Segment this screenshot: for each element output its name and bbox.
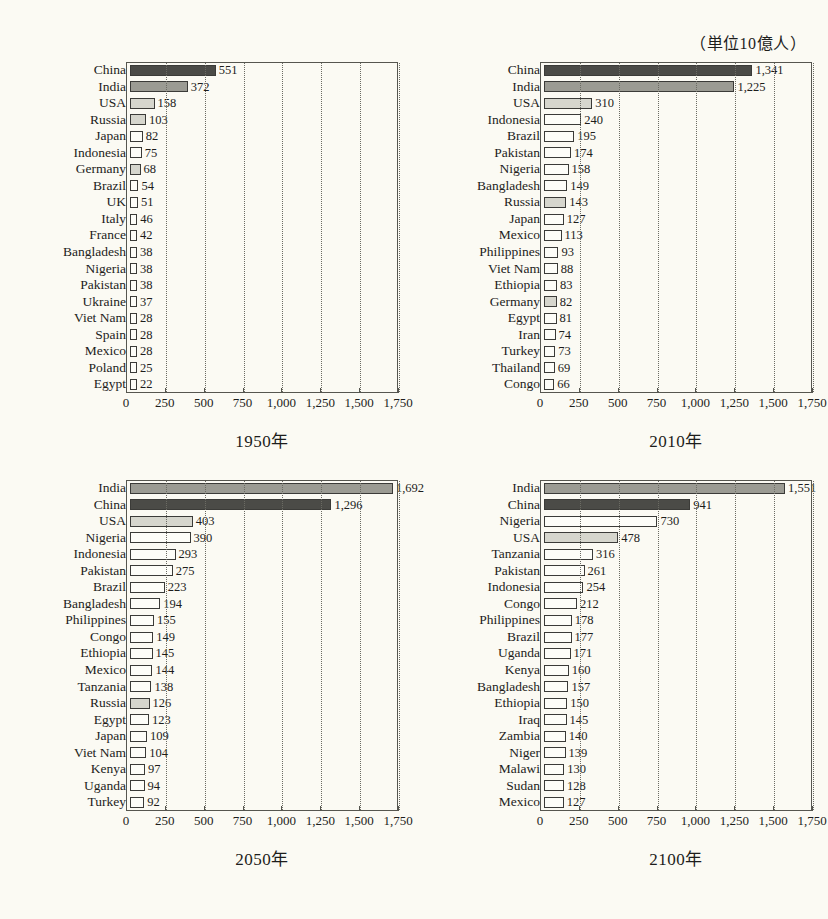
bar-value-label: 22 bbox=[137, 376, 153, 393]
bar-track: 140 bbox=[544, 728, 816, 745]
bar bbox=[130, 114, 146, 125]
bar-value-label: 130 bbox=[564, 761, 586, 778]
category-label: Zambia bbox=[414, 728, 544, 745]
bar bbox=[544, 197, 566, 208]
bar-value-label: 194 bbox=[160, 596, 182, 613]
bar-row: Germany68 bbox=[0, 161, 414, 178]
category-label: India bbox=[0, 79, 130, 96]
bar-track: 42 bbox=[130, 227, 402, 244]
bar-value-label: 123 bbox=[149, 712, 171, 729]
axis-tick-label: 1,250 bbox=[720, 395, 749, 411]
category-label: India bbox=[414, 480, 544, 497]
bar bbox=[544, 379, 554, 390]
bar-row: Nigeria158 bbox=[414, 161, 828, 178]
bar-row: Indonesia75 bbox=[0, 145, 414, 162]
bar bbox=[544, 329, 556, 340]
category-label: Egypt bbox=[0, 712, 130, 729]
bar-value-label: 138 bbox=[151, 679, 173, 696]
bar bbox=[130, 731, 147, 742]
bar-value-label: 223 bbox=[165, 579, 187, 596]
bar bbox=[130, 615, 154, 626]
bar-track: 81 bbox=[544, 310, 816, 327]
bar-track: 372 bbox=[130, 79, 402, 96]
axis-tick-mark bbox=[398, 388, 399, 393]
bar bbox=[130, 65, 216, 76]
chart-panel-2010: China1,341India1,225USA310Indonesia240Br… bbox=[414, 62, 828, 480]
bar-value-label: 66 bbox=[554, 376, 570, 393]
axis-tick-mark bbox=[126, 806, 127, 811]
bar-row: China551 bbox=[0, 62, 414, 79]
bar-track: 310 bbox=[544, 95, 816, 112]
axis-tick-mark bbox=[243, 806, 244, 811]
bar-row: Turkey73 bbox=[414, 343, 828, 360]
bar-row: India372 bbox=[0, 79, 414, 96]
bar bbox=[130, 362, 137, 373]
bar-value-label: 390 bbox=[191, 530, 213, 547]
bar-track: 403 bbox=[130, 513, 402, 530]
axis-tick-label: 1,750 bbox=[797, 813, 826, 829]
category-label: Russia bbox=[0, 695, 130, 712]
bar-row: Nigeria730 bbox=[414, 513, 828, 530]
bar-row: Mexico28 bbox=[0, 343, 414, 360]
bar-track: 158 bbox=[544, 161, 816, 178]
bar-value-label: 104 bbox=[146, 745, 168, 762]
bar-row: UK51 bbox=[0, 194, 414, 211]
bar-value-label: 158 bbox=[155, 95, 177, 112]
category-label: Mexico bbox=[0, 662, 130, 679]
bar-row: Ethiopia150 bbox=[414, 695, 828, 712]
axis-tick-label: 1,250 bbox=[720, 813, 749, 829]
bar bbox=[544, 780, 564, 791]
bar bbox=[130, 665, 152, 676]
bar-track: 25 bbox=[130, 360, 402, 377]
bar-track: 75 bbox=[130, 145, 402, 162]
bar-track: 1,341 bbox=[544, 62, 816, 79]
bar-row: Kenya160 bbox=[414, 662, 828, 679]
category-label: USA bbox=[0, 95, 130, 112]
bar bbox=[544, 483, 785, 494]
bar-track: 157 bbox=[544, 679, 816, 696]
axis-tick-label: 0 bbox=[537, 395, 544, 411]
bar-track: 138 bbox=[130, 679, 402, 696]
bar-row: Iraq145 bbox=[414, 712, 828, 729]
bar-row: Egypt123 bbox=[0, 712, 414, 729]
axis-tick-mark bbox=[618, 388, 619, 393]
bar-row: Viet Nam88 bbox=[414, 261, 828, 278]
bar-value-label: 145 bbox=[567, 712, 589, 729]
bar-track: 177 bbox=[544, 629, 816, 646]
bar bbox=[130, 483, 393, 494]
bar-track: 97 bbox=[130, 761, 402, 778]
bar-row: Italy46 bbox=[0, 211, 414, 228]
bar-row: Brazil195 bbox=[414, 128, 828, 145]
bar-row: Japan109 bbox=[0, 728, 414, 745]
category-label: Indonesia bbox=[0, 145, 130, 162]
bar-row: Viet Nam104 bbox=[0, 745, 414, 762]
bar-track: 94 bbox=[130, 778, 402, 795]
bar-row: Ethiopia83 bbox=[414, 277, 828, 294]
bar-track: 109 bbox=[130, 728, 402, 745]
bar-track: 174 bbox=[544, 145, 816, 162]
chart-panel-2050: India1,692China1,296USA403Nigeria390Indo… bbox=[0, 480, 414, 898]
bar bbox=[130, 598, 160, 609]
bar-value-label: 127 bbox=[564, 794, 586, 811]
bar-value-label: 97 bbox=[145, 761, 161, 778]
figure-sheet: ・・・・・・・・・・・・・ （単位10億人） China551India372U… bbox=[0, 0, 828, 919]
bar-value-label: 37 bbox=[137, 294, 153, 311]
bar-track: 69 bbox=[544, 360, 816, 377]
bar-row: Viet Nam28 bbox=[0, 310, 414, 327]
category-label: USA bbox=[0, 513, 130, 530]
bar-value-label: 1,341 bbox=[752, 62, 783, 79]
category-label: Germany bbox=[0, 161, 130, 178]
category-label: Niger bbox=[414, 745, 544, 762]
category-label: Tanzania bbox=[414, 546, 544, 563]
axis-tick-label: 1,750 bbox=[383, 813, 412, 829]
axis-tick-mark bbox=[165, 806, 166, 811]
bar bbox=[544, 549, 593, 560]
bar bbox=[544, 516, 657, 527]
bar-value-label: 941 bbox=[690, 497, 712, 514]
bar-track: 46 bbox=[130, 211, 402, 228]
bar-row: Russia103 bbox=[0, 112, 414, 129]
bar bbox=[130, 632, 153, 643]
bar-value-label: 149 bbox=[153, 629, 175, 646]
axis-tick-mark bbox=[281, 806, 282, 811]
bar-track: 1,296 bbox=[130, 497, 402, 514]
